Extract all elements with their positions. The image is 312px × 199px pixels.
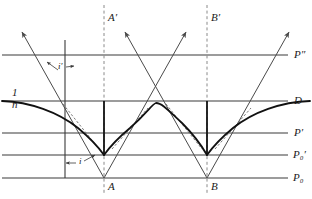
wavefront-arc-middle	[104, 103, 207, 155]
point-label-b: B	[211, 181, 218, 192]
ray-out-of-a	[104, 32, 186, 178]
ray-out-of-b	[207, 32, 289, 178]
diagram-canvas	[0, 0, 312, 199]
angle-i-arrow-right	[84, 155, 95, 161]
fraction-numerator: 1	[12, 87, 18, 99]
angle-i-prime-arrow-left	[47, 62, 58, 70]
tangent-b-left	[166, 104, 202, 149]
axis-label-d: D	[294, 95, 302, 106]
ray-into-b	[125, 32, 207, 178]
angle-label-i: i	[79, 157, 82, 166]
point-label-a: A	[108, 181, 115, 192]
cusp-verticals-group	[104, 101, 207, 155]
optics-ray-diagram: P″ D P′ P₀′ P₀ A′ B′ A B i′ i 1 n	[0, 0, 312, 199]
tangent-dashes-group	[63, 104, 251, 149]
wavefront-curves-group	[2, 101, 310, 155]
axis-label-p-prime: P′	[294, 127, 303, 138]
angle-label-i-prime: i′	[58, 62, 62, 71]
point-label-a-prime: A′	[108, 12, 117, 23]
axis-label-p-zero-prime: P₀′	[293, 149, 306, 160]
axis-label-p-zero: P₀	[293, 172, 304, 183]
angle-i-prime-arrow-right	[66, 66, 74, 67]
dashed-verticals-group	[104, 5, 207, 194]
point-label-b-prime: B′	[211, 12, 220, 23]
fraction-denominator: n	[12, 99, 18, 111]
rays-group	[22, 32, 289, 178]
refractive-index-fraction: 1 n	[12, 87, 18, 110]
axis-label-p-double-prime: P″	[294, 49, 305, 60]
ray-into-a	[22, 32, 104, 178]
